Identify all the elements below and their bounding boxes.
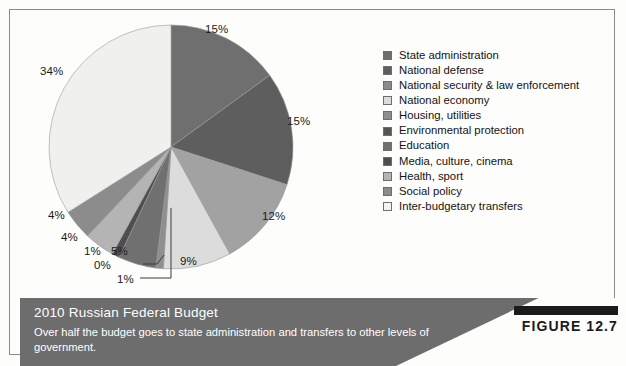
pie-value-label: 5% xyxy=(111,245,128,257)
pie-value-label: 12% xyxy=(262,210,285,222)
legend-item[interactable]: Education xyxy=(383,139,598,154)
legend-swatch-icon xyxy=(383,142,392,151)
pie-value-label: 4% xyxy=(61,231,78,243)
legend-item[interactable]: Housing, utilities xyxy=(383,108,598,123)
legend-swatch-icon xyxy=(383,66,392,75)
pie-chart-svg xyxy=(40,23,310,288)
legend-swatch-icon xyxy=(383,202,392,211)
legend-swatch-icon xyxy=(383,172,392,181)
legend-swatch-icon xyxy=(383,111,392,120)
legend-item-label: Environmental protection xyxy=(399,125,524,136)
pie-value-label: 34% xyxy=(40,65,63,77)
pie-value-label: 15% xyxy=(287,115,310,127)
pie-value-label: 15% xyxy=(205,23,228,35)
pie-value-label: 1% xyxy=(117,273,134,285)
figure-container: 15%15%12%9%5%0%1%1%4%4%34% State adminis… xyxy=(0,0,626,366)
pie-value-label: 1% xyxy=(84,245,101,257)
legend-swatch-icon xyxy=(383,127,392,136)
legend-item-label: Health, sport xyxy=(399,171,463,182)
chart-area: 15%15%12%9%5%0%1%1%4%4%34% State adminis… xyxy=(20,20,606,295)
legend-item[interactable]: Inter-budgetary transfers xyxy=(383,199,598,214)
legend-item[interactable]: Environmental protection xyxy=(383,123,598,138)
legend-item-label: Inter-budgetary transfers xyxy=(399,201,523,212)
caption-bar: 2010 Russian Federal Budget Over half th… xyxy=(20,298,626,366)
legend-item[interactable]: National defense xyxy=(383,63,598,78)
pie-value-label: 4% xyxy=(48,209,65,221)
legend-item[interactable]: Health, sport xyxy=(383,169,598,184)
caption-title: 2010 Russian Federal Budget xyxy=(34,305,454,320)
legend-item-label: Education xyxy=(399,140,449,151)
legend-item-label: National security & law enforcement xyxy=(399,80,579,91)
caption-text-block: 2010 Russian Federal Budget Over half th… xyxy=(34,305,454,355)
chart-legend: State administrationNational defenseNati… xyxy=(383,48,598,214)
legend-item[interactable]: National security & law enforcement xyxy=(383,78,598,93)
legend-item-label: Social policy xyxy=(399,186,462,197)
legend-swatch-icon xyxy=(383,51,392,60)
figure-number-badge: FIGURE 12.7 xyxy=(514,306,618,334)
legend-item-label: National defense xyxy=(399,65,484,76)
figure-badge-bar xyxy=(514,306,618,315)
legend-swatch-icon xyxy=(383,187,392,196)
legend-item[interactable]: National economy xyxy=(383,93,598,108)
pie-value-label: 9% xyxy=(180,255,197,267)
legend-swatch-icon xyxy=(383,81,392,90)
legend-item-label: Media, culture, cinema xyxy=(399,156,513,167)
legend-swatch-icon xyxy=(383,96,392,105)
legend-swatch-icon xyxy=(383,157,392,166)
legend-item[interactable]: Social policy xyxy=(383,184,598,199)
pie-chart: 15%15%12%9%5%0%1%1%4%4%34% xyxy=(40,23,310,288)
figure-frame: 15%15%12%9%5%0%1%1%4%4%34% State adminis… xyxy=(9,9,615,355)
figure-badge-label: FIGURE 12.7 xyxy=(514,318,618,334)
legend-item-label: Housing, utilities xyxy=(399,110,481,121)
legend-item-label: National economy xyxy=(399,95,489,106)
legend-item[interactable]: Media, culture, cinema xyxy=(383,154,598,169)
legend-item-label: State administration xyxy=(399,50,499,61)
caption-description: Over half the budget goes to state admin… xyxy=(34,325,454,355)
pie-value-label: 0% xyxy=(94,259,111,271)
legend-item[interactable]: State administration xyxy=(383,48,598,63)
